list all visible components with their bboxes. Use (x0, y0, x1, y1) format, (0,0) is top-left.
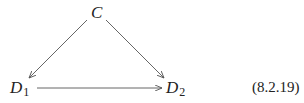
node-d1: D1 (10, 79, 29, 98)
node-c-letter: C (91, 3, 102, 22)
commutative-diagram: C D1 D2 (8.2.19) (0, 0, 304, 103)
node-d2: D2 (166, 79, 185, 98)
node-d1-letter: D (10, 78, 22, 97)
equation-number: (8.2.19) (252, 80, 300, 95)
node-c: C (91, 4, 102, 21)
arrow-c-to-d1 (29, 20, 87, 78)
node-d2-subscript: 2 (179, 85, 185, 99)
node-d2-letter: D (166, 78, 178, 97)
node-d1-subscript: 1 (23, 85, 29, 99)
arrow-c-to-d2 (106, 20, 164, 78)
